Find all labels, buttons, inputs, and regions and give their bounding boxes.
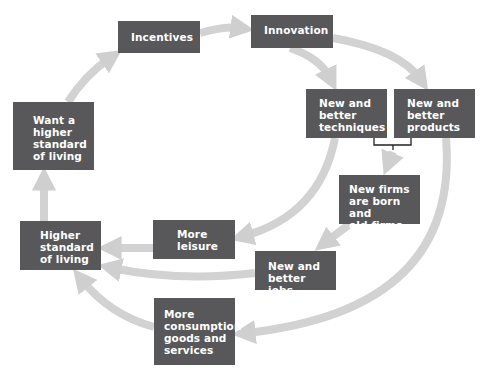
node-new-better-jobs: New and better jobs <box>255 251 336 290</box>
node-label: Higher standard of living <box>40 229 95 265</box>
node-higher-standard-of-living: Higher standard of living <box>20 221 101 270</box>
arrow-innovation-techniques <box>290 48 330 78</box>
node-new-better-products: New and better products <box>394 89 475 138</box>
node-label: Incentives <box>131 31 194 43</box>
node-label: Innovation <box>264 24 327 36</box>
arrow-want-incentives <box>68 58 110 102</box>
arrow-techniques-leisure <box>244 138 335 236</box>
arrow-jobs-higher <box>112 268 255 277</box>
node-innovation: Innovation <box>251 15 333 48</box>
node-more-consumption: More consumption goods and services <box>154 298 235 365</box>
node-want-higher-standard: Want a higher standard of living <box>13 102 94 170</box>
node-incentives: Incentives <box>118 21 200 53</box>
node-label: New and better jobs <box>268 260 330 296</box>
economic-growth-cycle-diagram: Incentives Innovation New and better tec… <box>0 0 486 374</box>
node-new-better-techniques: New and better techniques <box>306 89 387 138</box>
node-label: More consumption goods and services <box>164 308 229 356</box>
bracket-connector <box>374 138 411 150</box>
node-label: New and better techniques <box>319 97 381 133</box>
arrow-products-consumption <box>246 138 447 333</box>
arrow-bracket-firms <box>389 152 393 162</box>
node-label: More leisure <box>177 228 229 252</box>
node-new-firms: New firms are born and old firms die <box>339 175 420 224</box>
node-label: Want a higher standard of living <box>33 114 88 162</box>
arrow-incentives-innovation <box>200 28 240 33</box>
node-more-leisure: More leisure <box>153 220 235 259</box>
arrow-innovation-products <box>333 38 420 79</box>
arrow-consumption-higher <box>82 280 154 327</box>
node-label: New firms are born and old firms die <box>349 183 414 243</box>
arrow-firms-jobs <box>326 224 350 242</box>
node-label: New and better products <box>407 97 469 133</box>
